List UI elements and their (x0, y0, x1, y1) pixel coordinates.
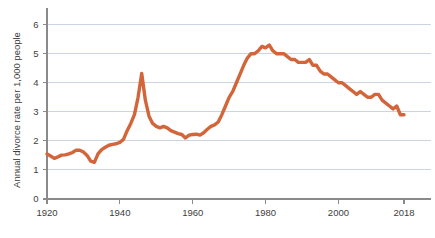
x-tick-label-2018: 2018 (393, 207, 414, 218)
x-axis-group: 192019401960198020002018 (36, 199, 431, 218)
divorce-rate-series-line (47, 45, 404, 162)
y-tick-label-4: 4 (33, 77, 38, 88)
divorce-rate-line-chart: 0123456 192019401960198020002018 Annual … (0, 0, 435, 238)
y-tick-label-3: 3 (33, 106, 38, 117)
y-axis-tick-marks (43, 25, 48, 199)
y-tick-label-1: 1 (33, 164, 38, 175)
y-tick-label-0: 0 (33, 193, 38, 204)
x-tick-label-1960: 1960 (182, 207, 203, 218)
y-tick-label-2: 2 (33, 135, 38, 146)
y-tick-label-6: 6 (33, 19, 38, 30)
x-tick-label-1980: 1980 (255, 207, 276, 218)
y-axis-group: 0123456 (33, 8, 47, 204)
series-group (47, 45, 404, 162)
x-axis-tick-marks (47, 199, 404, 204)
chart-svg: 0123456 192019401960198020002018 Annual … (0, 0, 435, 238)
y-axis-tick-labels: 0123456 (33, 19, 38, 204)
y-tick-label-5: 5 (33, 48, 38, 59)
y-axis-title: Annual divorce rate per 1,000 people (11, 32, 22, 188)
x-tick-label-1920: 1920 (36, 207, 57, 218)
x-axis-tick-labels: 192019401960198020002018 (36, 207, 414, 218)
x-tick-label-2000: 2000 (328, 207, 349, 218)
x-tick-label-1940: 1940 (109, 207, 130, 218)
